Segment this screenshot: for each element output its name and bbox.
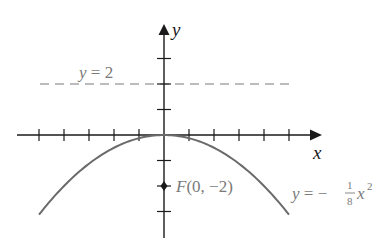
parabola-diagram: x y y = 2 F(0, −2) y = − 1 8 x 2 <box>0 0 392 247</box>
directrix-label-rest: = 2 <box>87 63 114 82</box>
y-axis-arrow-icon <box>159 24 170 35</box>
x-axis-arrow-icon <box>310 130 322 141</box>
y-axis-label: y <box>170 19 181 40</box>
equation-exponent: 2 <box>367 180 373 192</box>
directrix-label-var: y <box>77 63 87 82</box>
fraction-numerator: 1 <box>347 179 353 191</box>
focus-label-var: F <box>175 177 187 196</box>
focus-label: F(0, −2) <box>175 177 233 196</box>
equation-equals: = − <box>300 184 328 203</box>
x-axis-label: x <box>312 142 322 163</box>
equation-var-y: y <box>290 184 300 203</box>
equation-var-x: x <box>356 184 365 203</box>
parabola-equation-label: y = − 1 8 x 2 <box>290 179 373 207</box>
fraction-denominator: 8 <box>347 195 353 207</box>
focus-label-rest: (0, −2) <box>186 177 232 196</box>
svg-text:y = −: y = − <box>290 184 327 203</box>
focus-point-icon <box>161 181 168 191</box>
directrix-label: y = 2 <box>77 63 113 82</box>
